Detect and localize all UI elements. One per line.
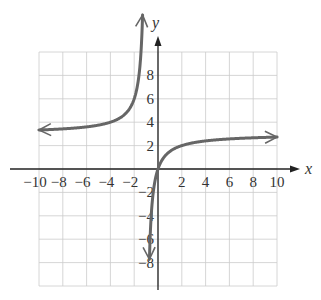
x-tick-label: 4 [202,174,210,190]
x-tick-label: 10 [270,174,285,190]
x-tick-label: 2 [178,174,186,190]
x-axis-label: x [304,160,312,177]
left-branch-curve [39,15,143,130]
x-tick-label: −10 [23,174,46,190]
axes [10,36,300,290]
y-axis-label: y [150,14,160,32]
x-tick-label: −6 [75,174,91,190]
y-tick-label: 4 [147,114,155,130]
y-tick-label: −6 [138,231,154,247]
x-tick-label: −2 [122,174,138,190]
x-axis-arrow-icon [290,166,300,173]
x-tick-label: −8 [51,174,67,190]
y-tick-label: −8 [138,255,154,271]
x-tick-label: 6 [226,174,234,190]
rational-function-graph: −10−8−6−4−22468108642−2−4−6−8 x y [0,0,321,300]
x-tick-label: −4 [98,174,114,190]
y-tick-label: 2 [147,138,155,154]
y-tick-label: 8 [147,67,155,83]
x-tick-label: 8 [249,174,257,190]
y-tick-label: 6 [147,91,155,107]
y-axis-arrow-icon [155,36,162,46]
right-branch-curve [149,137,277,259]
